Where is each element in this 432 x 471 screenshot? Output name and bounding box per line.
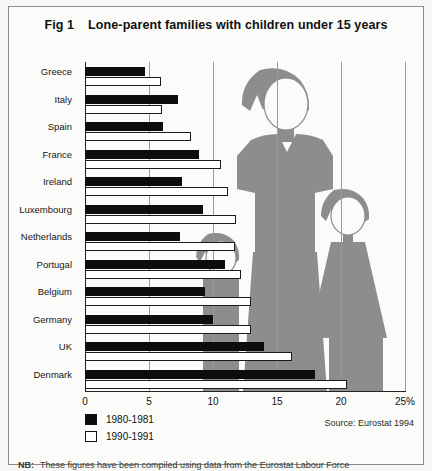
legend-item-1990: 1990-1991 — [85, 429, 154, 444]
bar-ireland-1980-1981 — [85, 177, 182, 186]
category-label-germany: Germany — [33, 314, 72, 325]
bar-denmark-1990-1991 — [85, 380, 347, 389]
page-title: Fig 1Lone-parent families with children … — [0, 18, 432, 32]
bar-spain-1980-1981 — [85, 122, 163, 131]
footnote-text: These figures have been compiled using d… — [40, 460, 349, 470]
category-label-luxembourg: Luxembourg — [19, 204, 72, 215]
bar-uk-1980-1981 — [85, 342, 264, 351]
footnote-prefix: NB: — [18, 460, 34, 470]
category-axis-labels: GreeceItalySpainFranceIrelandLuxembourgN… — [0, 62, 80, 392]
legend-swatch-1980-icon — [85, 414, 97, 425]
legend-item-1980: 1980-1981 — [85, 412, 154, 427]
value-axis-labels: 0510152025% — [0, 396, 432, 412]
bar-luxembourg-1980-1981 — [85, 205, 203, 214]
bar-series-container — [85, 62, 405, 392]
figure-page: Fig 1Lone-parent families with children … — [0, 0, 432, 471]
legend-label-1980: 1980-1981 — [106, 414, 154, 425]
bar-portugal-1990-1991 — [85, 270, 241, 279]
category-label-italy: Italy — [55, 94, 72, 105]
category-label-denmark: Denmark — [33, 369, 72, 380]
bar-belgium-1990-1991 — [85, 297, 251, 306]
bar-uk-1990-1991 — [85, 352, 292, 361]
x-tick-label-15: 15 — [271, 396, 282, 407]
bar-germany-1980-1981 — [85, 315, 213, 324]
bar-belgium-1980-1981 — [85, 287, 205, 296]
bar-netherlands-1990-1991 — [85, 242, 235, 251]
source-note: Source: Eurostat 1994 — [324, 418, 414, 428]
category-label-spain: Spain — [48, 121, 72, 132]
category-label-belgium: Belgium — [38, 286, 72, 297]
bar-spain-1990-1991 — [85, 132, 191, 141]
x-tick-label-0: 0 — [82, 396, 88, 407]
gridline-25 — [405, 62, 406, 392]
bar-france-1990-1991 — [85, 160, 221, 169]
legend: 1980-1981 1990-1991 — [85, 412, 154, 446]
bar-france-1980-1981 — [85, 150, 199, 159]
x-tick-label-20: 20 — [335, 396, 346, 407]
figure-number: Fig 1 — [44, 18, 74, 32]
category-label-france: France — [42, 149, 72, 160]
category-label-uk: UK — [59, 341, 72, 352]
bar-luxembourg-1990-1991 — [85, 215, 236, 224]
footnote: NB:These figures have been compiled usin… — [18, 459, 418, 471]
legend-swatch-1990-icon — [85, 431, 97, 442]
bar-germany-1990-1991 — [85, 325, 251, 334]
x-tick-label-25: 25% — [395, 396, 415, 407]
x-tick-label-5: 5 — [146, 396, 152, 407]
legend-label-1990: 1990-1991 — [106, 431, 154, 442]
category-label-netherlands: Netherlands — [21, 231, 72, 242]
bar-portugal-1980-1981 — [85, 260, 225, 269]
x-tick-label-10: 10 — [207, 396, 218, 407]
bar-ireland-1990-1991 — [85, 187, 228, 196]
category-label-portugal: Portugal — [37, 259, 72, 270]
figure-title-text: Lone-parent families with children under… — [88, 18, 387, 32]
bar-italy-1980-1981 — [85, 95, 178, 104]
bar-netherlands-1980-1981 — [85, 232, 180, 241]
category-label-ireland: Ireland — [43, 176, 72, 187]
category-label-greece: Greece — [41, 66, 72, 77]
bar-greece-1980-1981 — [85, 67, 145, 76]
bar-greece-1990-1991 — [85, 77, 161, 86]
bar-denmark-1980-1981 — [85, 370, 315, 379]
bar-italy-1990-1991 — [85, 105, 162, 114]
